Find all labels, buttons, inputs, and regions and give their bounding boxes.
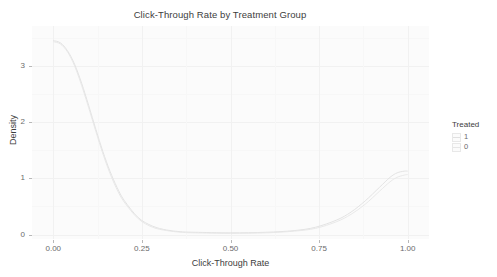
- density-curve-0: [53, 42, 407, 234]
- y-tick-mark: [29, 235, 32, 236]
- legend-key-icon: [452, 133, 461, 142]
- x-tick-label: 0.50: [211, 245, 251, 253]
- y-tick-mark: [29, 178, 32, 179]
- y-tick-label: 3: [3, 62, 25, 70]
- density-plot-figure: Click-Through Rate by Treatment Group 01…: [0, 0, 497, 277]
- legend-key-line: [453, 137, 460, 138]
- legend-key-line: [453, 147, 460, 148]
- x-tick-label: 0.75: [299, 245, 339, 253]
- legend-item[interactable]: 1: [452, 132, 494, 142]
- x-tick-label: 0.25: [122, 245, 162, 253]
- y-tick-label: 0: [3, 231, 25, 239]
- x-axis-title: Click-Through Rate: [32, 258, 429, 268]
- legend-items: 10: [452, 132, 494, 152]
- x-tick-label: 0.00: [33, 245, 73, 253]
- legend-label: 1: [464, 133, 468, 141]
- legend-item[interactable]: 0: [452, 142, 494, 152]
- x-tick-mark: [142, 240, 143, 243]
- y-tick-label: 1: [3, 174, 25, 182]
- page-title: Click-Through Rate by Treatment Group: [0, 9, 440, 20]
- legend-key-icon: [452, 143, 461, 152]
- y-axis-title: Density: [8, 100, 18, 160]
- x-tick-mark: [319, 240, 320, 243]
- legend-label: 0: [464, 143, 468, 151]
- y-tick-mark: [29, 122, 32, 123]
- x-tick-mark: [408, 240, 409, 243]
- x-tick-mark: [231, 240, 232, 243]
- y-tick-mark: [29, 66, 32, 67]
- density-curves: [32, 26, 429, 239]
- legend: Treated 10: [452, 120, 494, 152]
- plot-panel: [32, 26, 429, 239]
- density-curve-1: [53, 41, 407, 233]
- legend-title: Treated: [452, 120, 494, 129]
- x-tick-mark: [53, 240, 54, 243]
- x-tick-label: 1.00: [388, 245, 428, 253]
